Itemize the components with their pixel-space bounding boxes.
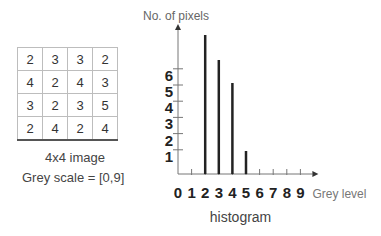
y-tick-label: 2 — [165, 132, 173, 149]
y-tick-label: 4 — [165, 99, 174, 116]
y-tick-label: 3 — [165, 115, 173, 132]
histogram-chart: 1234560123456789No. of pixelsGrey levelh… — [0, 0, 381, 236]
x-tick-label: 5 — [242, 184, 250, 201]
x-tick-label: 2 — [201, 184, 209, 201]
y-tick-label: 6 — [165, 67, 173, 84]
x-tick-label: 0 — [174, 184, 182, 201]
x-tick-label: 1 — [187, 184, 195, 201]
x-tick-label: 4 — [228, 184, 237, 201]
x-tick-label: 6 — [255, 184, 263, 201]
x-tick-label: 9 — [296, 184, 304, 201]
x-axis-arrow-icon — [312, 171, 318, 177]
y-axis-arrow-icon — [175, 24, 181, 30]
x-tick-label: 8 — [283, 184, 291, 201]
x-tick-label: 7 — [269, 184, 277, 201]
x-axis-label: Grey level — [312, 187, 366, 201]
chart-title: histogram — [210, 209, 271, 225]
y-tick-label: 1 — [165, 148, 173, 165]
y-axis-label: No. of pixels — [143, 9, 209, 23]
y-tick-label: 5 — [165, 83, 173, 100]
x-tick-label: 3 — [215, 184, 223, 201]
